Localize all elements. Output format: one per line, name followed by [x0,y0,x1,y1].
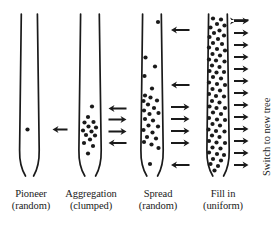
column-aggregation-trunk [79,14,101,176]
tree-colonization-diagram: Pioneer (random) Aggregation (clumped) S… [0,0,277,226]
column-label-aggregation-line2: (clumped) [56,200,126,212]
column-label-pioneer-line2: (random) [0,200,62,212]
column-label-pioneer: Pioneer (random) [0,188,62,211]
side-note-switch-to-new-tree: Switch to new tree [261,98,272,176]
column-spread-dots [141,20,160,166]
column-label-aggregation: Aggregation (clumped) [56,188,126,211]
column-aggregation-arrows [109,105,127,147]
column-label-pioneer-line1: Pioneer [0,188,62,200]
column-label-fill-in-line2: (uniform) [190,200,256,212]
column-label-aggregation-line1: Aggregation [56,188,126,200]
column-fill-in-dots [206,16,227,172]
column-pioneer-dots [25,127,29,131]
column-label-spread-line2: (random) [127,200,189,212]
column-pioneer-trunk [20,14,40,176]
column-pioneer-arrows [53,126,68,133]
column-label-spread: Spread (random) [127,188,189,211]
column-label-fill-in-line1: Fill in [190,188,256,200]
column-spread-arrows [171,26,190,168]
column-fill-in-arrows [230,17,249,168]
column-aggregation-dots [81,104,98,155]
column-label-fill-in: Fill in (uniform) [190,188,256,211]
column-label-spread-line1: Spread [127,188,189,200]
